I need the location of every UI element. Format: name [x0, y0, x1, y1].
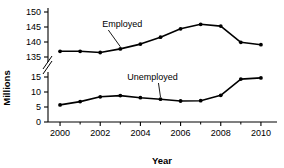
data-point-unemployed-2002: [98, 95, 102, 99]
y-tick-label-140: 140: [26, 37, 41, 47]
data-point-unemployed-2006: [179, 99, 183, 103]
data-point-employed-2003: [118, 47, 122, 51]
data-point-employed-2007: [199, 22, 203, 26]
x-axis: 200020022004200620082010: [48, 122, 277, 138]
x-tick-label-2002: 2002: [90, 128, 110, 138]
x-tick-label-2008: 2008: [211, 128, 231, 138]
data-point-unemployed-2009: [239, 77, 243, 81]
data-point-employed-2002: [98, 51, 102, 55]
annotation-label-employed: Employed: [102, 19, 142, 29]
x-axis-title: Year: [152, 155, 172, 166]
data-point-employed-2009: [239, 40, 243, 44]
y-tick-label-10: 10: [31, 87, 41, 97]
data-point-employed-2000: [58, 49, 62, 53]
y-tick-label-0: 0: [36, 117, 41, 127]
annotation-label-unemployed: Unemployed: [127, 72, 178, 82]
data-point-unemployed-2010: [259, 76, 263, 80]
x-tick-label-2000: 2000: [50, 128, 70, 138]
x-tick-label-2006: 2006: [171, 128, 191, 138]
data-point-unemployed-2007: [199, 99, 203, 103]
data-point-unemployed-2008: [219, 93, 223, 97]
y-tick-label-145: 145: [26, 22, 41, 32]
data-point-employed-2010: [259, 43, 263, 47]
data-point-unemployed-2000: [58, 103, 62, 107]
y-axis: 051015135140145150: [26, 7, 52, 127]
data-point-employed-2004: [139, 42, 143, 46]
annotation-leader-employed: [108, 30, 120, 47]
data-point-unemployed-2005: [159, 97, 163, 101]
data-point-employed-2006: [179, 27, 183, 31]
data-point-unemployed-2004: [139, 96, 143, 100]
data-point-employed-2005: [159, 35, 163, 39]
annotation-leader-unemployed: [158, 83, 160, 97]
x-tick-label-2004: 2004: [130, 128, 150, 138]
y-axis-title: Millions: [1, 70, 12, 105]
data-point-employed-2001: [78, 49, 82, 53]
y-tick-label-5: 5: [36, 102, 41, 112]
data-point-employed-2008: [219, 24, 223, 28]
chart-canvas: 051015135140145150 200020022004200620082…: [0, 0, 284, 168]
y-tick-label-15: 15: [31, 72, 41, 82]
employment-line-chart: 051015135140145150 200020022004200620082…: [0, 0, 284, 168]
y-tick-label-150: 150: [26, 7, 41, 17]
y-tick-label-135: 135: [26, 52, 41, 62]
data-point-unemployed-2001: [78, 100, 82, 104]
series-annotations: EmployedUnemployed: [102, 19, 177, 97]
data-point-unemployed-2003: [118, 94, 122, 98]
x-tick-label-2010: 2010: [251, 128, 271, 138]
